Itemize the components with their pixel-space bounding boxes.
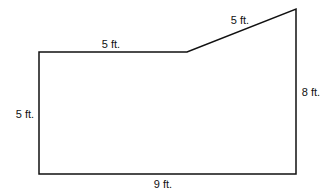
floor-plan-shape (0, 0, 330, 196)
top-side-label: 5 ft. (102, 38, 120, 50)
left-side-label: 5 ft. (16, 108, 34, 120)
slanted-side-label: 5 ft. (231, 14, 249, 26)
shape-outline (39, 9, 296, 174)
bottom-side-label: 9 ft. (154, 178, 172, 190)
right-side-label: 8 ft. (302, 86, 320, 98)
